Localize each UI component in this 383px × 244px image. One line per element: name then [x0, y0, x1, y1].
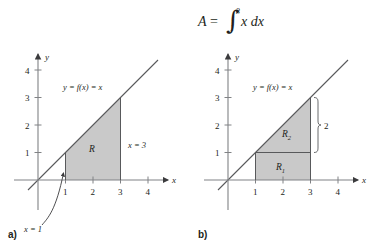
formula-integrand: x dx — [240, 14, 265, 29]
y-tick-label-4: 4 — [25, 66, 30, 76]
panel-b-plot: x y 1 2 3 4 1 2 3 4 y = f(x) — [190, 40, 383, 240]
y-tick-label-3: 3 — [215, 93, 220, 103]
x-tick-label-3: 3 — [118, 187, 123, 197]
figure-container: A = ∫ 1 3 x dx — [0, 0, 383, 244]
panel-a-label: a) — [8, 229, 17, 240]
x-tick-label-1: 1 — [253, 187, 258, 197]
integral-formula: A = ∫ 1 3 x dx — [196, 2, 336, 36]
y-tick-label-3: 3 — [25, 93, 30, 103]
region-label-r: R — [88, 144, 95, 154]
formula-equals: = — [210, 14, 218, 29]
y-tick-label-2: 2 — [215, 121, 220, 131]
x-axis-label: x — [171, 175, 176, 185]
function-label: y = f(x) = x — [252, 82, 293, 92]
formula-lhs: A — [197, 14, 207, 29]
annotation-x-equals-1: x = 1 — [23, 224, 42, 234]
x-tick-label-4: 4 — [336, 187, 341, 197]
x-tick-label-1: 1 — [63, 187, 68, 197]
brace-height-label: 2 — [324, 121, 329, 131]
callout-arrow-x1 — [42, 173, 64, 225]
y-tick-label-1: 1 — [215, 148, 220, 158]
formula-svg: A = ∫ 1 3 x dx — [196, 2, 336, 36]
y-tick-label-1: 1 — [25, 148, 30, 158]
panel-a-plot: x y 1 2 3 4 1 2 3 4 y = f(x) = x — [0, 40, 190, 240]
x-tick-label-3: 3 — [308, 187, 313, 197]
panel-b: x y 1 2 3 4 1 2 3 4 y = f(x) — [190, 40, 380, 244]
x-tick-label-2: 2 — [281, 187, 286, 197]
shaded-region-r — [66, 98, 121, 181]
x-tick-label-2: 2 — [91, 187, 96, 197]
x-tick-label-4: 4 — [146, 187, 151, 197]
brace-icon — [314, 98, 321, 153]
y-tick-label-2: 2 — [25, 121, 30, 131]
panel-a: x y 1 2 3 4 1 2 3 4 y = f(x) = x — [0, 40, 190, 244]
annotation-x-equals-3: x = 3 — [127, 140, 146, 150]
x-axis-label: x — [361, 175, 366, 185]
y-axis-label: y — [44, 52, 49, 62]
function-label: y = f(x) = x — [62, 82, 103, 92]
y-tick-label-4: 4 — [215, 66, 220, 76]
panel-b-label: b) — [198, 229, 207, 240]
y-axis-label: y — [234, 52, 239, 62]
integral-lower-limit: 1 — [230, 24, 234, 33]
integral-upper-limit: 3 — [235, 7, 240, 16]
